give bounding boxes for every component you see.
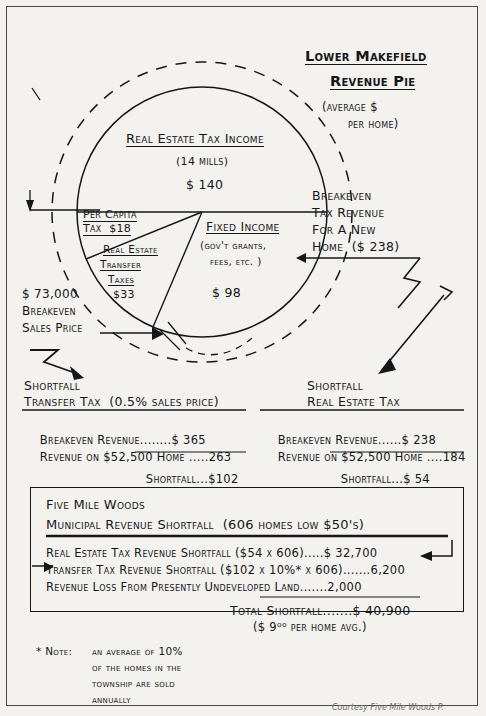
arrow-to-re-shortfall-head bbox=[378, 358, 396, 374]
lightning-connector-right bbox=[398, 258, 420, 308]
footnote-line1: an average of 10% bbox=[92, 645, 183, 657]
title-note-line1: (average $ bbox=[322, 100, 378, 114]
page-title: Lower Makefield bbox=[305, 48, 427, 65]
dashed-tail-right bbox=[186, 338, 252, 355]
pie-label-real-estate-sub: (14 mills) bbox=[176, 155, 228, 168]
footnote-line2: of the homes in the bbox=[92, 661, 182, 673]
credit-line: Courtesy Five Mile Woods P. bbox=[332, 703, 444, 712]
sales-price-callout-line3: Sales Price bbox=[22, 321, 83, 335]
breakeven-callout-line2: Tax Revenue bbox=[312, 205, 384, 220]
diagram-page: Lower Makefield Revenue Pie (average $ p… bbox=[0, 0, 486, 716]
pie-label-transfer-line2: Transfer bbox=[100, 258, 141, 271]
shortfall-realestate-heading2: Real Estate Tax bbox=[307, 394, 400, 409]
left-tick-mark bbox=[32, 88, 40, 100]
summary-title-line2: Municipal Revenue Shortfall (606 homes l… bbox=[46, 517, 364, 532]
summary-total-per-home: ($ 9⁰⁰ per home avg.) bbox=[253, 620, 367, 634]
summary-item-real-estate: Real Estate Tax Revenue Shortfall ($54 x… bbox=[46, 546, 377, 560]
footnote-line3: township are sold bbox=[92, 677, 175, 689]
footnote-marker: * Note: bbox=[36, 645, 72, 657]
pie-label-transfer-line1: Real Estate bbox=[103, 243, 158, 256]
pie-value-fixed-income: $ 98 bbox=[212, 285, 241, 300]
pie-value-real-estate: $ 140 bbox=[186, 177, 223, 192]
pie-label-per-capita-line2: Tax $18 bbox=[83, 222, 131, 236]
arrow-to-re-shortfall bbox=[382, 295, 444, 370]
page-subtitle: Revenue Pie bbox=[330, 73, 415, 90]
left-leader-line bbox=[30, 190, 100, 210]
summary-title-line1: Five Mile Woods bbox=[46, 497, 145, 512]
pie-label-fixed-income: Fixed Income bbox=[206, 219, 279, 234]
summary-total: Total Shortfall.......$ 40,900 bbox=[230, 603, 411, 618]
pie-label-fixed-income-sub1: (gov't grants, bbox=[200, 239, 266, 251]
shortfall-transfer-heading1: Shortfall bbox=[24, 378, 80, 393]
pie-label-real-estate: Real Estate Tax Income bbox=[126, 131, 264, 147]
pie-label-per-capita-line1: Per Capita bbox=[83, 208, 137, 222]
breakeven-callout-line4: Home ($ 238) bbox=[312, 239, 399, 254]
summary-item-undeveloped-land: Revenue Loss From Presently Undeveloped … bbox=[46, 580, 362, 594]
pie-label-transfer-line3: Taxes bbox=[108, 273, 134, 286]
sales-price-callout-line2: Breakeven bbox=[22, 304, 76, 318]
breakeven-callout-line3: For A New bbox=[312, 222, 376, 237]
sales-price-callout-line1: $ 73,000 bbox=[22, 287, 78, 301]
title-note-line2: per home) bbox=[348, 117, 399, 131]
lightning-connector-left bbox=[30, 350, 78, 374]
breakeven-callout-line1: Breakeven bbox=[312, 188, 372, 203]
footnote-line4: annually bbox=[92, 693, 131, 705]
breakeven-leader-arrowhead bbox=[296, 253, 306, 263]
shortfall-transfer-heading2: Transfer Tax (0.5% sales price) bbox=[24, 394, 219, 409]
pie-label-fixed-income-sub2: fees, etc. ) bbox=[210, 255, 262, 267]
shortfall-realestate-heading1: Shortfall bbox=[307, 378, 363, 393]
summary-item-transfer-tax: Transfer Tax Revenue Shortfall ($102 x 1… bbox=[46, 563, 405, 577]
pie-value-transfer: $33 bbox=[113, 288, 135, 301]
